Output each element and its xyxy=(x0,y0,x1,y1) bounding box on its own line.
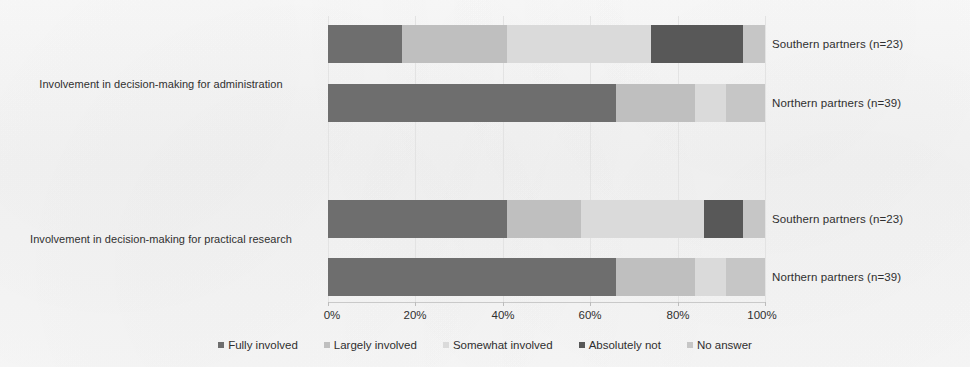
bar-label-northern-administration: Northern partners (n=39) xyxy=(772,97,901,109)
bar-label-southern-administration: Southern partners (n=23) xyxy=(772,38,903,50)
bar-row[interactable] xyxy=(328,200,765,238)
bar-label-northern-practical-research: Northern partners (n=39) xyxy=(772,271,901,283)
bar-segment-somewhat-involved[interactable] xyxy=(695,84,726,122)
legend-label: Somewhat involved xyxy=(453,339,553,351)
legend-item-absolutely-not[interactable]: Absolutely not xyxy=(579,339,661,351)
bar-segment-no-answer[interactable] xyxy=(726,84,765,122)
x-tick-40 xyxy=(503,302,504,306)
x-tick-label-0: 0% xyxy=(309,309,355,321)
bar-segment-absolutely-not[interactable] xyxy=(704,200,743,238)
x-tick-label-100: 100% xyxy=(739,309,785,321)
bar-row[interactable] xyxy=(328,25,765,63)
x-tick-label-40: 40% xyxy=(480,309,526,321)
legend-label: Largely involved xyxy=(334,339,417,351)
gridline-100 xyxy=(765,16,766,302)
x-tick-100 xyxy=(765,302,766,306)
x-tick-60 xyxy=(590,302,591,306)
bar-segment-fully-involved[interactable] xyxy=(328,200,507,238)
bar-segment-no-answer[interactable] xyxy=(743,200,765,238)
bar-label-southern-practical-research: Southern partners (n=23) xyxy=(772,213,903,225)
bar-row[interactable] xyxy=(328,84,765,122)
x-tick-20 xyxy=(415,302,416,306)
x-axis-line xyxy=(328,302,766,303)
legend-swatch-icon xyxy=(579,342,585,348)
legend-label: No answer xyxy=(697,339,752,351)
x-tick-label-80: 80% xyxy=(655,309,701,321)
bar-segment-fully-involved[interactable] xyxy=(328,84,616,122)
category-label-administration: Involvement in decision-making for admin… xyxy=(0,78,322,90)
bar-segment-absolutely-not[interactable] xyxy=(651,25,743,63)
bar-segment-largely-involved[interactable] xyxy=(616,84,695,122)
x-tick-0 xyxy=(328,302,329,306)
legend-swatch-icon xyxy=(687,342,693,348)
legend-label: Fully involved xyxy=(228,339,298,351)
x-tick-80 xyxy=(678,302,679,306)
legend-item-fully-involved[interactable]: Fully involved xyxy=(218,339,298,351)
bar-segment-fully-involved[interactable] xyxy=(328,258,616,296)
legend-swatch-icon xyxy=(443,342,449,348)
legend-item-largely-involved[interactable]: Largely involved xyxy=(324,339,417,351)
bar-segment-largely-involved[interactable] xyxy=(616,258,695,296)
bar-segment-largely-involved[interactable] xyxy=(402,25,507,63)
legend-swatch-icon xyxy=(324,342,330,348)
legend-swatch-icon xyxy=(218,342,224,348)
x-tick-label-60: 60% xyxy=(567,309,613,321)
chart-legend: Fully involved Largely involved Somewhat… xyxy=(0,339,970,351)
legend-label: Absolutely not xyxy=(589,339,661,351)
bar-row[interactable] xyxy=(328,258,765,296)
bar-segment-largely-involved[interactable] xyxy=(507,200,581,238)
legend-item-no-answer[interactable]: No answer xyxy=(687,339,752,351)
bar-segment-somewhat-involved[interactable] xyxy=(507,25,651,63)
bar-segment-somewhat-involved[interactable] xyxy=(695,258,726,296)
category-label-practical-research: Involvement in decision-making for pract… xyxy=(0,233,322,245)
bar-segment-no-answer[interactable] xyxy=(726,258,765,296)
bar-segment-somewhat-involved[interactable] xyxy=(581,200,703,238)
stacked-bar-chart: Southern partners (n=23) Northern partne… xyxy=(0,0,970,367)
bar-segment-no-answer[interactable] xyxy=(743,25,765,63)
bar-segment-fully-involved[interactable] xyxy=(328,25,402,63)
x-tick-label-20: 20% xyxy=(392,309,438,321)
legend-item-somewhat-involved[interactable]: Somewhat involved xyxy=(443,339,553,351)
